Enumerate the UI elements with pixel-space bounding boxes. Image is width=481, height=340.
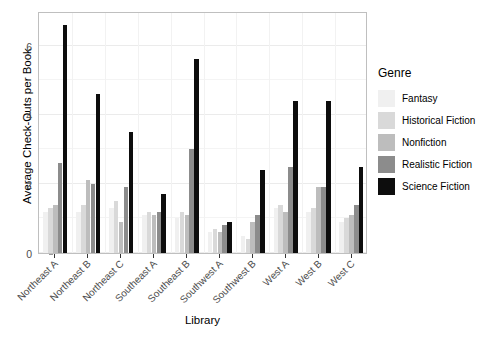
bar [354, 205, 359, 253]
bar [213, 229, 218, 253]
legend-item[interactable]: Realistic Fiction [378, 153, 481, 175]
bars-layer [39, 13, 366, 253]
legend-swatch [378, 134, 395, 151]
bar [161, 194, 166, 253]
bar [48, 208, 53, 253]
bar-group [339, 13, 363, 253]
bar-chart: Average Check-Outs per Book 0246 Northea… [0, 0, 481, 340]
bar [321, 187, 326, 253]
bar-group [241, 13, 265, 253]
y-axis-tick-label: 6 [26, 41, 32, 53]
legend-label: Historical Fiction [402, 115, 475, 126]
bar [278, 205, 283, 253]
bar-group [306, 13, 330, 253]
bar [189, 149, 194, 253]
bar [227, 222, 232, 253]
y-axis-tick-label: 4 [26, 110, 32, 122]
bar [293, 101, 298, 253]
legend-swatch [378, 156, 395, 173]
bar-group [76, 13, 100, 253]
legend-items: FantasyHistorical FictionNonfictionReali… [378, 87, 481, 197]
bar [180, 212, 185, 253]
bar [194, 59, 199, 253]
bar [260, 170, 265, 253]
bar-group [175, 13, 199, 253]
bar [222, 225, 227, 253]
legend-label: Nonfiction [402, 137, 446, 148]
legend-swatch [378, 112, 395, 129]
bar [58, 163, 63, 253]
x-axis-title: Library [38, 314, 367, 326]
bar [288, 167, 293, 253]
bar [157, 212, 162, 253]
bar [344, 218, 349, 253]
bar-group [142, 13, 166, 253]
bar [255, 215, 260, 253]
legend-label: Science Fiction [402, 181, 470, 192]
x-axis-tick-labels: Northeast ANortheast BNortheast CSouthea… [38, 258, 367, 314]
y-axis-tick-label: 2 [26, 179, 32, 191]
legend-title: Genre [378, 66, 481, 80]
bar-group [109, 13, 133, 253]
legend: Genre FantasyHistorical FictionNonfictio… [378, 66, 481, 197]
bar [326, 101, 331, 253]
legend-swatch [378, 90, 395, 107]
bar [246, 239, 251, 253]
legend-label: Realistic Fiction [402, 159, 472, 170]
bar-group [43, 13, 67, 253]
bar [114, 201, 119, 253]
legend-item[interactable]: Fantasy [378, 87, 481, 109]
bar [96, 94, 101, 253]
bar [311, 208, 316, 253]
bar-group [274, 13, 298, 253]
bar [91, 184, 96, 253]
plot-panel [38, 12, 367, 254]
legend-swatch [378, 178, 395, 195]
legend-item[interactable]: Nonfiction [378, 131, 481, 153]
bar-group [208, 13, 232, 253]
legend-label: Fantasy [402, 93, 438, 104]
bar [63, 25, 68, 253]
y-axis-tick-label: 0 [26, 248, 32, 260]
legend-item[interactable]: Science Fiction [378, 175, 481, 197]
bar [359, 167, 364, 253]
legend-item[interactable]: Historical Fiction [378, 109, 481, 131]
bar [147, 212, 152, 253]
bar [129, 132, 134, 253]
bar [81, 205, 86, 253]
bar [124, 187, 129, 253]
